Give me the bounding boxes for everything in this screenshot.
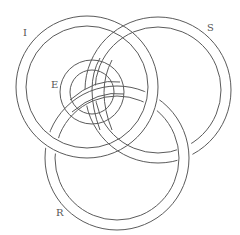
label-i: I [23, 27, 27, 38]
knot-diagram [0, 0, 240, 235]
ring-i [16, 16, 158, 158]
label-s: S [207, 22, 214, 33]
label-e: E [51, 79, 58, 90]
label-r: R [56, 207, 64, 218]
ring-e [60, 58, 124, 130]
ring-r [45, 86, 189, 230]
